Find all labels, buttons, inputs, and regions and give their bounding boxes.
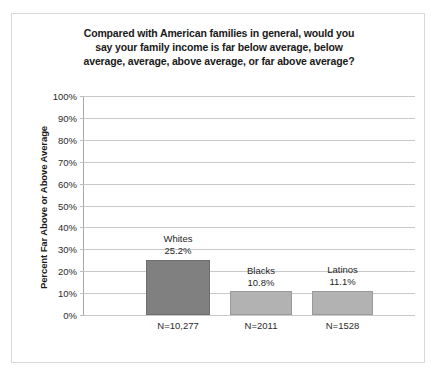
gridline-30: 30% [84,249,415,250]
bar-label-latinos-name: Latinos [327,264,358,276]
bar-label-latinos: Latinos 11.1% [327,264,358,289]
bar-label-blacks: Blacks 10.8% [247,265,275,290]
tick-mark-90 [80,118,84,119]
chart-frame: Compared with American families in gener… [11,13,425,363]
y-tick-label-70: 70% [31,156,77,167]
tick-mark-0 [80,315,84,316]
x-label-whites: N=10,277 [146,320,210,331]
gridline-0: 0% [84,315,415,316]
bar-label-blacks-value: 10.8% [247,277,275,289]
bar-label-whites-value: 25.2% [163,245,192,257]
bar-label-blacks-name: Blacks [247,265,275,277]
y-tick-label-50: 50% [31,200,77,211]
gridline-60: 60% [84,184,415,185]
bar-label-whites-name: Whites [163,233,192,245]
tick-mark-40 [80,227,84,228]
chart-title-line-2: say your family income is far below aver… [40,40,398,54]
bar-whites[interactable]: Whites 25.2% [146,260,210,315]
y-tick-label-40: 40% [31,222,77,233]
y-tick-label-90: 90% [31,112,77,123]
x-label-latinos: N=1528 [312,320,373,331]
plot-area: 100% 90% 80% 70% 60% 50% 40% 30% [84,96,415,315]
tick-mark-30 [80,249,84,250]
bar-label-whites: Whites 25.2% [163,233,192,258]
y-tick-label-80: 80% [31,134,77,145]
tick-mark-10 [80,293,84,294]
tick-mark-60 [80,184,84,185]
y-tick-label-100: 100% [31,91,77,102]
bar-latinos[interactable]: Latinos 11.1% [312,291,373,315]
gridline-70: 70% [84,162,415,163]
gridline-40: 40% [84,227,415,228]
tick-mark-70 [80,162,84,163]
y-tick-label-60: 60% [31,178,77,189]
gridline-80: 80% [84,140,415,141]
tick-mark-20 [80,271,84,272]
x-label-blacks: N=2011 [230,320,292,331]
y-tick-label-30: 30% [31,244,77,255]
y-tick-label-20: 20% [31,266,77,277]
tick-mark-80 [80,140,84,141]
chart-title-line-1: Compared with American families in gener… [40,26,398,40]
gridline-50: 50% [84,206,415,207]
gridline-90: 90% [84,118,415,119]
chart-title: Compared with American families in gener… [40,26,398,69]
y-tick-label-0: 0% [31,310,77,321]
bar-blacks[interactable]: Blacks 10.8% [230,291,292,315]
y-tick-label-10: 10% [31,288,77,299]
chart-title-line-3: average, average, above average, or far … [40,54,398,68]
x-axis-labels: N=10,277 N=2011 N=1528 [84,320,415,338]
gridline-100: 100% [84,96,415,97]
bar-label-latinos-value: 11.1% [327,276,358,288]
tick-mark-100 [80,96,84,97]
tick-mark-50 [80,206,84,207]
